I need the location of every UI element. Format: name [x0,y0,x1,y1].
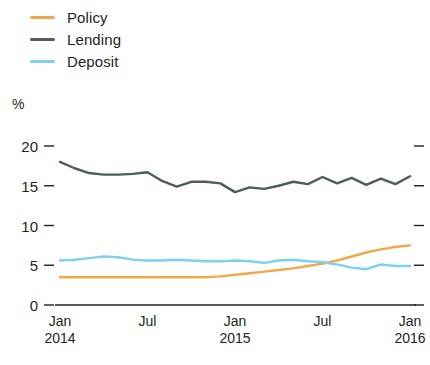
x-axis-tick-year: 2016 [394,330,425,347]
interest-rate-line-chart: Policy Lending Deposit % 20151050Jan2014… [0,0,430,365]
x-axis-tick-label: Jan2016 [394,313,425,347]
plot-area [0,0,430,365]
y-axis-tick-label: 0 [4,297,38,314]
x-axis-tick-month: Jul [139,313,157,330]
series-line-deposit [60,257,410,270]
x-axis-tick-label: Jul [314,313,332,330]
x-axis-tick-label: Jan2015 [219,313,250,347]
x-axis-tick-month: Jan [44,313,75,330]
x-axis-tick-month: Jan [219,313,250,330]
x-axis-tick-label: Jul [139,313,157,330]
y-axis-tick-label: 10 [4,217,38,234]
series-line-lending [60,162,410,192]
x-axis-tick-year: 2014 [44,330,75,347]
y-axis-tick-label: 15 [4,177,38,194]
x-axis-tick-label: Jan2014 [44,313,75,347]
x-axis-tick-month: Jan [394,313,425,330]
y-axis-tick-label: 5 [4,257,38,274]
x-axis-tick-year: 2015 [219,330,250,347]
x-axis-tick-month: Jul [314,313,332,330]
y-axis-tick-label: 20 [4,138,38,155]
